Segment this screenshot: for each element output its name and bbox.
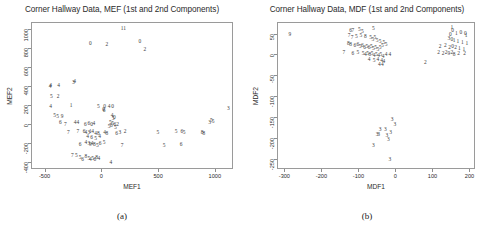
data-point: 1 (461, 40, 464, 45)
data-point: 3 (387, 138, 390, 143)
x-axis-label: MDF1 (367, 183, 385, 190)
data-point: 2 (57, 95, 60, 100)
data-point: 9 (61, 114, 64, 119)
panel-b-points: 9675557755855555588665665655555557655458… (278, 23, 474, 168)
panel-a-title: Corner Hallway Data, MEF (1st and 2nd Co… (0, 5, 244, 14)
data-point: 4 (108, 104, 111, 109)
data-point: 6 (110, 123, 113, 128)
data-point: 5 (360, 33, 363, 38)
data-point: 6 (99, 142, 102, 147)
data-point: 0 (111, 104, 114, 109)
data-point: 4 (381, 63, 384, 68)
data-point: 3 (388, 158, 391, 163)
data-point: 0 (459, 30, 462, 35)
y-axis-label: MDF2 (252, 87, 259, 105)
data-point: 2 (124, 130, 127, 135)
panel-a: Corner Hallway Data, MEF (1st and 2nd Co… (0, 0, 244, 225)
data-point: 6 (180, 129, 183, 134)
x-tick-mark (45, 169, 46, 172)
y-tick-label: -200 (269, 138, 275, 149)
x-tick-mark (284, 169, 285, 172)
data-point: 1 (457, 39, 460, 44)
data-point: 8 (203, 132, 206, 137)
y-tick-label: 0 (269, 54, 275, 57)
data-point: 5 (381, 44, 384, 49)
y-axis-label: MEF2 (6, 87, 13, 105)
data-point: 7 (351, 28, 354, 33)
data-point: 4 (57, 83, 60, 88)
data-point: 6 (79, 142, 82, 147)
data-point: 2 (106, 42, 109, 47)
data-point: 3 (208, 121, 211, 126)
x-tick-label: 0 (394, 173, 397, 179)
data-point: 5 (212, 120, 215, 125)
data-point: 1 (455, 31, 458, 36)
data-point: 5 (372, 27, 375, 32)
data-point: 4 (49, 84, 52, 89)
data-point: 4 (388, 52, 391, 57)
data-point: 4 (86, 134, 89, 139)
data-point: 2 (457, 51, 460, 56)
data-point: 6 (351, 51, 354, 56)
x-tick-mark (321, 169, 322, 172)
data-point: 7 (121, 143, 124, 148)
data-point: 8 (453, 52, 456, 57)
data-point: 3 (384, 127, 387, 132)
x-axis-label: MEF1 (123, 183, 141, 190)
data-point: 9 (288, 32, 291, 37)
y-tick-label: 200 (23, 105, 29, 114)
data-point: 1 (465, 41, 468, 46)
data-point: 3 (376, 133, 379, 138)
panel-a-caption: (a) (0, 211, 244, 221)
data-point: 4 (98, 156, 101, 161)
data-point: 8 (349, 42, 352, 47)
data-point: 1 (465, 34, 468, 39)
data-point: 3 (72, 80, 75, 85)
y-tick-label: 400 (23, 86, 29, 95)
x-tick-label: 100 (428, 173, 437, 179)
data-point: 5 (97, 104, 100, 109)
data-point: 4 (49, 104, 52, 109)
data-point: 3 (391, 118, 394, 123)
data-point: 3 (389, 130, 392, 135)
x-tick-mark (358, 169, 359, 172)
data-point: 5 (385, 43, 388, 48)
y-tick-label: 600 (23, 67, 29, 76)
x-tick-mark (395, 169, 396, 172)
x-tick-mark (215, 169, 216, 172)
data-point: 3 (119, 131, 122, 136)
data-point: 5 (355, 34, 358, 39)
data-point: 5 (175, 130, 178, 135)
data-point: 6 (115, 132, 118, 137)
y-tick-label: -100 (269, 96, 275, 107)
data-point: 6 (180, 142, 183, 147)
x-tick-label: -100 (353, 173, 364, 179)
y-tick-label: -200 (23, 143, 29, 154)
data-point: 7 (351, 35, 354, 40)
x-tick-label: -500 (39, 173, 50, 179)
y-tick-label: -150 (269, 117, 275, 128)
data-point: 2 (437, 50, 440, 55)
y-tick-label: -250 (269, 159, 275, 170)
y-tick-label: 1000 (23, 29, 29, 41)
data-point: 0 (138, 39, 141, 44)
data-point: 5 (163, 143, 166, 148)
figure-container: Corner Hallway Data, MEF (1st and 2nd Co… (0, 0, 489, 225)
data-point: 7 (77, 130, 80, 135)
data-point: 3 (394, 123, 397, 128)
data-point: 4 (385, 53, 388, 58)
data-point: 6 (103, 109, 106, 114)
data-point: 7 (71, 153, 74, 158)
data-point: 0 (89, 41, 92, 46)
data-point: 6 (84, 122, 87, 127)
data-point: 6 (59, 121, 62, 126)
x-tick-label: 200 (465, 173, 474, 179)
data-point: 6 (90, 135, 93, 140)
panel-b: Corner Hallway Data, MDF (1st and 2nd Co… (245, 0, 489, 225)
data-point: 4 (110, 161, 113, 166)
data-point: 3 (372, 144, 375, 149)
data-point: 5 (373, 59, 376, 64)
x-tick-label: -300 (279, 173, 290, 179)
y-tick-label: -50 (269, 75, 275, 83)
x-tick-mark (469, 169, 470, 172)
